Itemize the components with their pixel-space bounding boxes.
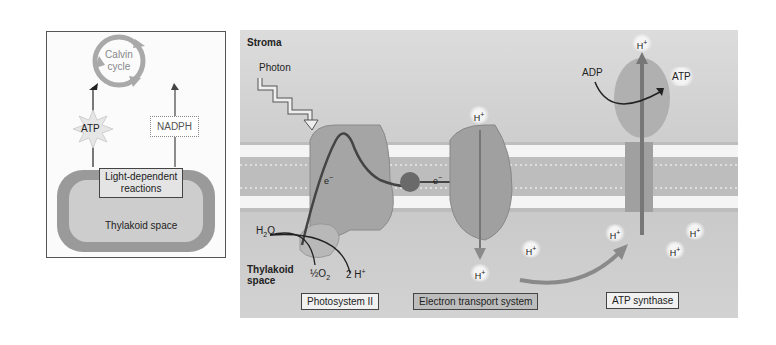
two-h-text: 2 H: [346, 269, 362, 280]
nadph-box: NADPH: [150, 116, 199, 137]
o-text: O: [267, 225, 275, 236]
stroma-label: Stroma: [247, 37, 281, 48]
proton-ion: H+: [684, 222, 706, 240]
o2-sub: 2: [326, 274, 330, 281]
h-sup: +: [480, 111, 484, 118]
atp-label: ATP: [81, 123, 100, 134]
main-diagram: Stroma Photon e− e− H2O ½O2 2 H+ Thylako…: [240, 30, 738, 318]
light-reactions-box: Light-dependent reactions: [99, 168, 183, 198]
water-label: H2O: [256, 225, 275, 238]
photosystem-label: Photosystem II: [301, 293, 379, 310]
light-reactions-line1: Light-dependent: [105, 171, 177, 183]
proton-ion: H+: [469, 264, 491, 282]
adp-label: ADP: [582, 67, 603, 78]
proton-ion: H+: [604, 224, 626, 242]
overview-panel: Calvin cycle ATP NADPH Light-dependent r…: [46, 31, 226, 258]
thylakoid-line2: space: [247, 275, 294, 286]
electron-sup: −: [438, 174, 442, 181]
proton-ion: H+: [631, 34, 653, 52]
atp-label: ATP: [668, 67, 695, 86]
h-sup: +: [532, 245, 536, 252]
calvin-line2: cycle: [99, 61, 139, 73]
atp-synthase-label: ATP synthase: [606, 292, 679, 309]
electron-label-1: e−: [324, 174, 333, 186]
thylakoid-space-label: Thylakoid space: [247, 264, 294, 286]
proton-ion: H+: [520, 240, 542, 258]
oxygen-label: ½O2: [310, 268, 330, 281]
two-protons-label: 2 H+: [346, 268, 366, 280]
electron-label-2: e−: [433, 174, 442, 186]
thylakoid-line1: Thylakoid: [247, 264, 294, 275]
calvin-cycle-label: Calvin cycle: [99, 49, 139, 73]
h-sup: +: [481, 269, 485, 276]
h-sup: +: [362, 268, 366, 275]
h-sup: +: [643, 39, 647, 46]
h-sup: +: [676, 246, 680, 253]
proton-ion: H+: [468, 106, 490, 124]
h-sup: +: [696, 227, 700, 234]
calvin-line1: Calvin: [99, 49, 139, 61]
h-sup: +: [616, 229, 620, 236]
photon-label: Photon: [259, 62, 291, 73]
electron-sup: −: [329, 174, 333, 181]
light-reactions-line2: reactions: [105, 183, 177, 195]
half-o-text: ½O: [310, 268, 326, 279]
electron-transport-label: Electron transport system: [413, 293, 538, 310]
thylakoid-space-label: Thylakoid space: [105, 220, 177, 231]
proton-ion: H+: [664, 241, 686, 259]
